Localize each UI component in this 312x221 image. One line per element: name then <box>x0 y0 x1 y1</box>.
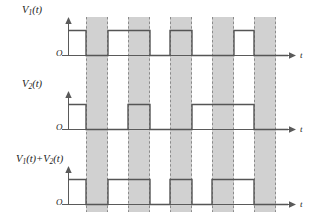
band-fill-3 <box>170 17 192 212</box>
panel-sum-origin-label: O <box>56 197 63 207</box>
panel-v1-v-axis-arrowhead <box>65 17 71 24</box>
shaded-band-5 <box>254 17 276 212</box>
waveform-figure: OtV1(t)OtV2(t)OtV1(t)+V2(t) <box>0 0 312 221</box>
waveform-svg: OtV1(t)OtV2(t)OtV1(t)+V2(t) <box>0 0 312 221</box>
panel-v1-origin-label: O <box>56 48 63 58</box>
shaded-band-4 <box>212 17 234 212</box>
shaded-band-2 <box>128 17 150 212</box>
panel-v1-t-axis-arrowhead <box>289 52 296 58</box>
panel-v2-v-axis-arrowhead <box>65 91 71 98</box>
panel-v1-signal-label: V1(t) <box>22 4 43 17</box>
panel-v2-signal-label: V2(t) <box>22 78 43 91</box>
band-fill-4 <box>212 17 234 212</box>
panel-v1-t-label: t <box>300 50 303 60</box>
band-fill-2 <box>128 17 150 212</box>
panel-sum-t-label: t <box>300 199 303 209</box>
panel-sum-signal-label: V1(t)+V2(t) <box>16 153 64 166</box>
panel-v2-origin-label: O <box>56 122 63 132</box>
panel-v2-t-axis-arrowhead <box>289 126 296 132</box>
band-fill-5 <box>254 17 276 212</box>
panel-sum-t-axis-arrowhead <box>289 201 296 207</box>
shaded-bands-group <box>86 17 276 212</box>
band-fill-1 <box>86 17 108 212</box>
panel-v2-t-label: t <box>300 124 303 134</box>
panel-sum-v-axis-arrowhead <box>65 166 71 173</box>
shaded-band-3 <box>170 17 192 212</box>
shaded-band-1 <box>86 17 108 212</box>
